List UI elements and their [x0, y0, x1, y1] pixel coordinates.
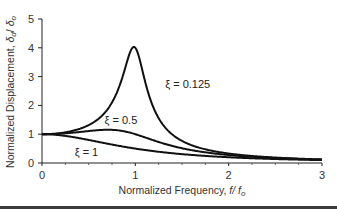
- y-tick-label: 5: [28, 13, 34, 25]
- y-axis-title: Normalized Displacement, δd/ δo: [4, 16, 18, 168]
- y-tick-label: 1: [28, 128, 34, 140]
- x-tick-label: 0: [39, 169, 45, 181]
- y-tick-label: 4: [28, 42, 34, 54]
- y-tick-label: 2: [28, 99, 34, 111]
- curve-label: ξ = 0.125: [165, 78, 210, 90]
- curve-labels: ξ = 0.125ξ = 0.5ξ = 1: [75, 78, 211, 158]
- bottom-divider: [0, 206, 337, 209]
- y-tick-label: 0: [28, 157, 34, 169]
- curve-label: ξ = 0.5: [105, 114, 138, 126]
- x-tick-label: 2: [226, 169, 232, 181]
- axes: 0123450123: [28, 13, 325, 181]
- x-axis-title: Normalized Frequency, f/ fo: [119, 184, 246, 198]
- curve-label: ξ = 1: [75, 146, 99, 158]
- x-tick-label: 3: [319, 169, 325, 181]
- y-tick-label: 3: [28, 71, 34, 83]
- curve-zeta-0-125: [42, 47, 322, 159]
- x-tick-label: 1: [132, 169, 138, 181]
- frequency-response-chart: 0123450123 ξ = 0.125ξ = 0.5ξ = 1 Normali…: [0, 0, 337, 210]
- curves: [42, 47, 322, 160]
